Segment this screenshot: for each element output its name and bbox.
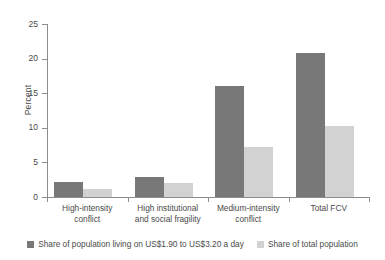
bar-group	[128, 24, 209, 197]
bar-0[interactable]	[215, 86, 244, 197]
legend-item[interactable]: Share of total population	[257, 239, 358, 249]
y-tick-label: 15	[29, 89, 38, 98]
legend-label: Share of total population	[268, 239, 358, 249]
y-tick-label: 20	[29, 54, 38, 63]
y-tick-label: 5	[33, 158, 38, 167]
bar-0[interactable]	[135, 177, 164, 197]
bar-chart: Percent 0510152025 High-intensityconflic…	[0, 0, 385, 260]
x-tick-mark	[128, 198, 129, 202]
plot-area	[47, 24, 369, 197]
bar-group	[208, 24, 289, 197]
bar-1[interactable]	[164, 183, 193, 197]
legend-label: Share of population living on US$1.90 to…	[38, 239, 244, 249]
legend-item[interactable]: Share of population living on US$1.90 to…	[27, 239, 244, 249]
x-tick-mark	[369, 198, 370, 202]
y-tick-label: 25	[29, 20, 38, 29]
bar-1[interactable]	[325, 126, 354, 197]
x-category-label: Total FCV	[274, 203, 384, 214]
bar-0[interactable]	[296, 53, 325, 197]
x-category-label-line: Total FCV	[274, 203, 384, 214]
x-category-label-line: conflict	[193, 214, 303, 225]
legend-swatch-icon	[257, 241, 264, 248]
bar-1[interactable]	[83, 189, 112, 197]
legend-swatch-icon	[27, 241, 34, 248]
y-tick-label: 0	[33, 193, 38, 202]
bar-group	[289, 24, 370, 197]
x-tick-mark	[289, 198, 290, 202]
x-tick-mark	[208, 198, 209, 202]
bar-1[interactable]	[244, 147, 273, 197]
y-tick-label: 10	[29, 123, 38, 132]
x-tick-mark	[47, 198, 48, 202]
chart-legend: Share of population living on US$1.90 to…	[0, 239, 385, 249]
bar-group	[47, 24, 128, 197]
bar-0[interactable]	[54, 182, 83, 197]
